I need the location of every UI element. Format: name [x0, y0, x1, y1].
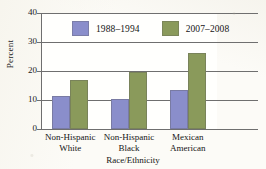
legend-swatch-0 [72, 21, 89, 36]
gridline-40 [41, 13, 258, 14]
legend-label-1: 2007–2008 [186, 24, 230, 34]
bar-2-0 [170, 90, 188, 129]
legend-swatch-1 [162, 21, 179, 36]
bar-0-1 [70, 80, 88, 129]
bar-1-0 [111, 99, 129, 129]
y-tick-mark-40 [37, 13, 41, 14]
bar-0-0 [52, 96, 70, 129]
x-axis-title: Race/Ethnicity [0, 155, 266, 165]
y-tick-mark-30 [37, 42, 41, 43]
y-tick-mark-20 [37, 71, 41, 72]
bar-chart-figure: Percent 010203040 1988–19942007–2008 Non… [0, 0, 266, 169]
chart-legend: 1988–19942007–2008 [72, 21, 229, 36]
bar-1-1 [129, 72, 147, 129]
legend-item-1: 2007–2008 [162, 21, 230, 36]
legend-label-0: 1988–1994 [96, 24, 140, 34]
bar-2-1 [188, 53, 206, 129]
y-axis-tick-labels: 010203040 [13, 13, 37, 129]
y-tick-label-40: 40 [15, 8, 37, 17]
y-tick-mark-10 [37, 100, 41, 101]
gridline-20 [41, 71, 258, 72]
y-tick-mark-0 [37, 129, 41, 130]
x-axis-category-labels: Non-HispanicWhiteNon-HispanicBlackMexica… [41, 132, 258, 156]
y-tick-label-30: 30 [15, 37, 37, 46]
legend-item-0: 1988–1994 [72, 21, 140, 36]
x-category-label-2: MexicanAmerican [143, 132, 233, 154]
y-tick-label-10: 10 [15, 95, 37, 104]
y-tick-label-20: 20 [15, 66, 37, 75]
gridline-30 [41, 42, 258, 43]
